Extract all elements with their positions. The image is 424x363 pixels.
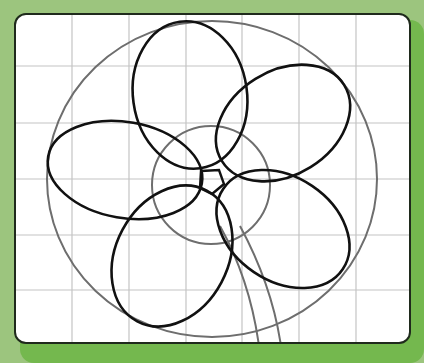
flower-diagram xyxy=(0,0,424,363)
petal-left xyxy=(40,109,210,231)
grid-lines xyxy=(0,0,424,363)
petal-lower-left xyxy=(88,164,256,347)
inner-guide-circle xyxy=(152,126,270,244)
petal-lower-right xyxy=(194,146,372,313)
center-pentagon xyxy=(200,170,224,194)
